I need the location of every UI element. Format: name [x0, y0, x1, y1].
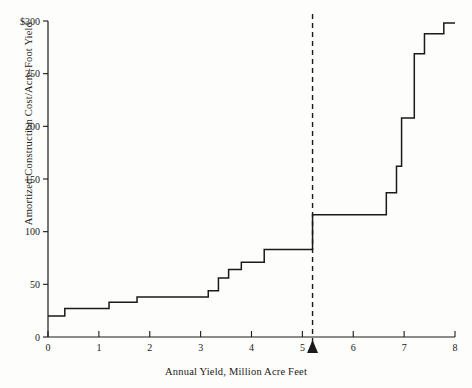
x-axis-tick-labels: 012345678 — [46, 342, 458, 353]
y-axis-label: Amortized Construction Cost/Acre-Foot Yi… — [23, 4, 34, 244]
x-axis-tick-label: 3 — [198, 342, 203, 353]
x-axis-tick-label: 6 — [351, 342, 356, 353]
x-axis-tick-label: 4 — [249, 342, 254, 353]
x-axis-tick-label: 8 — [453, 342, 458, 353]
x-axis-tick-label: 5 — [300, 342, 305, 353]
y-axis-tick-label: 0 — [35, 332, 40, 343]
chart-canvas: 050100150200250$300 012345678 — [0, 0, 472, 388]
x-axis-tick-label: 0 — [46, 342, 51, 353]
y-axis-tick-label: 50 — [30, 279, 40, 290]
x-axis-tick-label: 2 — [147, 342, 152, 353]
x-axis-label: Annual Yield, Million Acre Feet — [0, 366, 472, 377]
y-axis-label-text: Amortized Construction Cost/Acre-Foot Yi… — [23, 22, 34, 225]
x-axis-label-text: Annual Yield, Million Acre Feet — [165, 366, 307, 377]
chart-figure: 050100150200250$300 012345678 Amortized … — [0, 0, 472, 388]
x-axis-tick-label: 7 — [402, 342, 407, 353]
triangle-marker-icon — [307, 340, 318, 353]
axes-group — [48, 21, 455, 337]
x-axis-ticks — [48, 331, 455, 337]
x-axis-tick-label: 1 — [96, 342, 101, 353]
y-axis-ticks — [43, 21, 48, 337]
step-series-line — [48, 23, 455, 316]
